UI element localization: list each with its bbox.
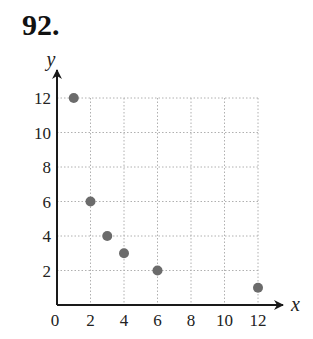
x-tick-label: 4: [120, 311, 129, 330]
x-tick-label: 6: [153, 311, 162, 330]
y-tick-label: 10: [34, 124, 51, 143]
y-tick-label: 12: [34, 89, 51, 108]
y-tick-label: 4: [43, 227, 52, 246]
data-point: [153, 266, 163, 276]
data-point: [102, 231, 112, 241]
y-tick-label: 6: [43, 193, 52, 212]
x-tick-label: 0: [51, 311, 60, 330]
data-point: [253, 283, 263, 293]
y-tick-label: 2: [43, 262, 52, 281]
y-axis-label: y: [45, 48, 56, 71]
x-tick-label: 8: [187, 311, 196, 330]
y-tick-label: 8: [43, 158, 52, 177]
data-point: [86, 197, 96, 207]
x-tick-label: 10: [216, 311, 233, 330]
data-point: [69, 93, 79, 103]
x-axis-label: x: [290, 293, 300, 315]
tick-labels: 02468101224681012: [34, 89, 267, 330]
scatter-plot: y x 02468101224681012: [0, 0, 313, 339]
x-tick-label: 12: [250, 311, 267, 330]
data-points: [69, 93, 263, 293]
x-tick-label: 2: [86, 311, 95, 330]
data-point: [119, 248, 129, 258]
axes: y x: [45, 48, 300, 315]
